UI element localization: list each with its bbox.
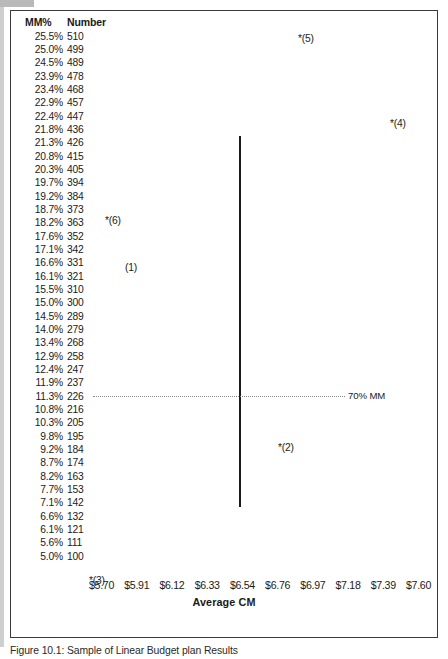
- cell-mm-percent: 9.8%: [25, 431, 63, 442]
- table-row: 23.4%468: [11, 84, 141, 97]
- cell-number: 426: [67, 137, 93, 148]
- chart-frame: MM% Number 25.5%51025.0%49924.5%48923.9%…: [10, 10, 438, 638]
- cell-mm-percent: 24.5%: [25, 57, 63, 68]
- cell-number: 510: [67, 31, 93, 42]
- reference-line-label: 70% MM: [348, 390, 385, 401]
- table-row: 18.7%373: [11, 204, 141, 217]
- cell-number: 163: [67, 471, 93, 482]
- cell-mm-percent: 21.3%: [25, 137, 63, 148]
- cell-number: 405: [67, 164, 93, 175]
- cell-number: 310: [67, 284, 93, 295]
- cell-mm-percent: 19.7%: [25, 177, 63, 188]
- cell-number: 352: [67, 231, 93, 242]
- x-axis-tick: $6.76: [265, 579, 290, 591]
- data-point-marker-m1: (1): [125, 262, 137, 273]
- cell-number: 247: [67, 364, 93, 375]
- cell-mm-percent: 20.8%: [25, 151, 63, 162]
- cell-mm-percent: 23.9%: [25, 71, 63, 82]
- table-row: 11.9%237: [11, 377, 141, 390]
- data-point-marker-m5: *(5): [298, 33, 314, 44]
- table-row: 10.3%205: [11, 417, 141, 430]
- table-row: 20.3%405: [11, 164, 141, 177]
- cell-mm-percent: 8.2%: [25, 471, 63, 482]
- table-row: 23.9%478: [11, 71, 141, 84]
- table-row: 6.1%121: [11, 524, 141, 537]
- table-row: 25.5%510: [11, 31, 141, 44]
- cell-number: 195: [67, 431, 93, 442]
- cell-mm-percent: 15.0%: [25, 297, 63, 308]
- cell-number: 226: [67, 391, 93, 402]
- cell-mm-percent: 18.7%: [25, 204, 63, 215]
- cell-mm-percent: 20.3%: [25, 164, 63, 175]
- cell-number: 436: [67, 124, 93, 135]
- table-row: 24.5%489: [11, 57, 141, 70]
- table-row: 19.2%384: [11, 191, 141, 204]
- cell-mm-percent: 12.9%: [25, 351, 63, 362]
- table-row: 14.5%289: [11, 311, 141, 324]
- cell-mm-percent: 21.8%: [25, 124, 63, 135]
- cell-mm-percent: 7.1%: [25, 497, 63, 508]
- cell-mm-percent: 5.0%: [25, 551, 63, 562]
- cell-mm-percent: 6.6%: [25, 511, 63, 522]
- table-row: 5.0%100: [11, 551, 141, 564]
- cell-mm-percent: 13.4%: [25, 337, 63, 348]
- x-axis-tick: $7.39: [371, 579, 396, 591]
- cell-number: 342: [67, 244, 93, 255]
- cell-number: 489: [67, 57, 93, 68]
- cell-number: 279: [67, 324, 93, 335]
- x-axis-tick: $7.60: [406, 579, 431, 591]
- x-axis-tick-labels: $5.70$5.91$6.12$6.33$6.54$6.76$6.97$7.18…: [89, 579, 431, 591]
- cell-mm-percent: 11.9%: [25, 377, 63, 388]
- figure-container: MM% Number 25.5%51025.0%49924.5%48923.9%…: [0, 0, 448, 659]
- table-row: 12.9%258: [11, 351, 141, 364]
- table-row: 16.1%321: [11, 271, 141, 284]
- cell-number: 237: [67, 377, 93, 388]
- table-row: 22.9%457: [11, 97, 141, 110]
- cell-mm-percent: 9.2%: [25, 444, 63, 455]
- cell-number: 394: [67, 177, 93, 188]
- table-row: 17.6%352: [11, 231, 141, 244]
- x-axis-tick: $5.70: [89, 579, 114, 591]
- cell-mm-percent: 11.3%: [25, 391, 63, 402]
- cell-number: 111: [67, 537, 93, 548]
- cell-mm-percent: 10.3%: [25, 417, 63, 428]
- cell-mm-percent: 10.8%: [25, 404, 63, 415]
- cell-mm-percent: 22.9%: [25, 97, 63, 108]
- cell-mm-percent: 6.1%: [25, 524, 63, 535]
- x-axis-title: Average CM: [11, 596, 437, 608]
- table-row: 20.8%415: [11, 151, 141, 164]
- x-axis-tick: $6.33: [195, 579, 220, 591]
- cell-number: 468: [67, 84, 93, 95]
- scan-artifact-left: [0, 7, 4, 647]
- table-row: 25.0%499: [11, 44, 141, 57]
- x-axis-tick: $5.91: [124, 579, 149, 591]
- cell-mm-percent: 19.2%: [25, 191, 63, 202]
- x-axis-tick: $6.54: [230, 579, 255, 591]
- cell-number: 300: [67, 297, 93, 308]
- cell-mm-percent: 25.0%: [25, 44, 63, 55]
- cell-mm-percent: 25.5%: [25, 31, 63, 42]
- cell-number: 289: [67, 311, 93, 322]
- cell-number: 384: [67, 191, 93, 202]
- cell-number: 132: [67, 511, 93, 522]
- cell-number: 499: [67, 44, 93, 55]
- table-row: 15.5%310: [11, 284, 141, 297]
- table-row: 15.0%300: [11, 297, 141, 310]
- cell-mm-percent: 14.5%: [25, 311, 63, 322]
- cell-number: 184: [67, 444, 93, 455]
- table-row: 22.4%447: [11, 111, 141, 124]
- cell-number: 268: [67, 337, 93, 348]
- cell-mm-percent: 7.7%: [25, 484, 63, 495]
- table-row: 9.8%195: [11, 431, 141, 444]
- cell-mm-percent: 16.6%: [25, 257, 63, 268]
- table-row: 10.8%216: [11, 404, 141, 417]
- table-row: 6.6%132: [11, 511, 141, 524]
- table-row: 18.2%363: [11, 217, 141, 230]
- cell-mm-percent: 8.7%: [25, 457, 63, 468]
- x-axis-tick: $6.12: [159, 579, 184, 591]
- cell-mm-percent: 14.0%: [25, 324, 63, 335]
- cell-number: 363: [67, 217, 93, 228]
- reference-line-70-mm: [93, 396, 345, 397]
- cell-number: 373: [67, 204, 93, 215]
- cell-number: 121: [67, 524, 93, 535]
